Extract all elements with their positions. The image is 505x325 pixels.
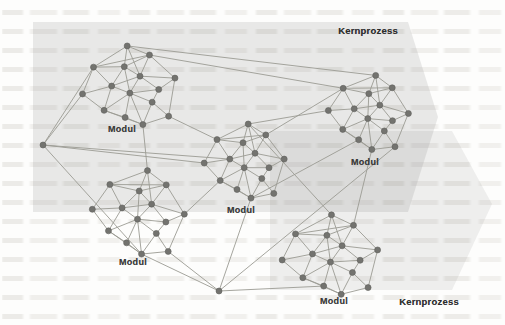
network-node — [144, 168, 150, 174]
network-node — [156, 86, 162, 92]
network-node — [80, 91, 86, 97]
cluster-edge — [138, 219, 142, 254]
cluster-edge — [142, 233, 157, 254]
modul-label-bottom-right: Modul — [320, 296, 348, 306]
network-node — [259, 176, 265, 182]
cluster-edge — [92, 209, 108, 231]
network-node — [109, 83, 115, 89]
network-node — [136, 188, 142, 194]
network-node — [124, 240, 130, 246]
network-node — [166, 113, 172, 119]
network-node — [266, 165, 272, 171]
network-node — [140, 122, 146, 128]
network-node — [214, 137, 220, 143]
network-node — [389, 85, 395, 91]
network-node — [119, 205, 125, 211]
network-node — [122, 114, 128, 120]
cluster-edge — [142, 251, 169, 254]
network-node — [381, 128, 387, 134]
kernprozess-arrow-bottom — [270, 131, 492, 290]
network-node — [165, 248, 171, 254]
network-node — [271, 190, 277, 196]
network-node — [321, 283, 327, 289]
network-node — [340, 85, 346, 91]
network-node — [105, 228, 111, 234]
network-node — [234, 187, 240, 193]
network-node — [369, 146, 375, 152]
modul-label-center: Modul — [227, 205, 255, 215]
process-module-diagram: Kernprozess Kernprozess Modul Modul Modu… — [0, 0, 505, 325]
network-node — [350, 222, 356, 228]
network-node — [252, 150, 258, 156]
network-node — [389, 118, 395, 124]
network-node — [309, 251, 315, 257]
network-node — [121, 64, 127, 70]
cluster-edge — [343, 88, 392, 89]
modul-label-top-left: Modul — [108, 124, 136, 134]
network-node — [300, 275, 306, 281]
hub-node — [216, 288, 222, 294]
network-node — [153, 230, 159, 236]
network-node — [135, 216, 141, 222]
network-node — [227, 156, 233, 162]
network-node — [366, 91, 372, 97]
network-node — [339, 243, 345, 249]
network-node — [365, 285, 371, 291]
cluster-edge — [138, 219, 166, 222]
network-node — [351, 106, 357, 112]
network-node — [327, 259, 333, 265]
network-node — [279, 257, 285, 263]
network-node — [245, 121, 251, 127]
network-node — [375, 247, 381, 253]
network-node — [281, 156, 287, 162]
network-node — [163, 219, 169, 225]
network-node — [137, 73, 143, 79]
network-canvas — [0, 0, 505, 325]
network-node — [356, 137, 362, 143]
network-node — [90, 64, 96, 70]
network-node — [240, 140, 246, 146]
network-node — [377, 102, 383, 108]
network-node — [124, 43, 130, 49]
network-node — [101, 107, 107, 113]
network-node — [172, 75, 178, 81]
network-node — [328, 212, 334, 218]
network-node — [263, 132, 269, 138]
kernprozess-label-bottom: Kernprozess — [399, 296, 459, 307]
modul-label-bottom-left: Modul — [119, 257, 147, 267]
modul-label-top-right: Modul — [351, 157, 379, 167]
network-node — [146, 52, 152, 58]
network-node — [373, 72, 379, 78]
network-node — [201, 160, 207, 166]
network-node — [325, 108, 331, 114]
inter-cluster-edge — [142, 254, 219, 291]
network-node — [349, 270, 355, 276]
network-node — [292, 231, 298, 237]
network-node — [107, 182, 113, 188]
network-node — [340, 126, 346, 132]
network-node — [149, 201, 155, 207]
kernprozess-label-top: Kernprozess — [338, 25, 398, 36]
network-node — [365, 116, 371, 122]
network-node — [248, 195, 254, 201]
network-node — [217, 178, 223, 184]
network-node — [149, 99, 155, 105]
network-node — [181, 211, 187, 217]
hub-node — [40, 142, 46, 148]
network-node — [357, 257, 363, 263]
network-node — [405, 110, 411, 116]
network-node — [127, 90, 133, 96]
network-node — [163, 182, 169, 188]
cluster-edge — [138, 219, 157, 233]
network-node — [392, 144, 398, 150]
network-node — [241, 165, 247, 171]
network-node — [89, 206, 95, 212]
inter-cluster-edge — [168, 251, 219, 291]
network-node — [324, 232, 330, 238]
